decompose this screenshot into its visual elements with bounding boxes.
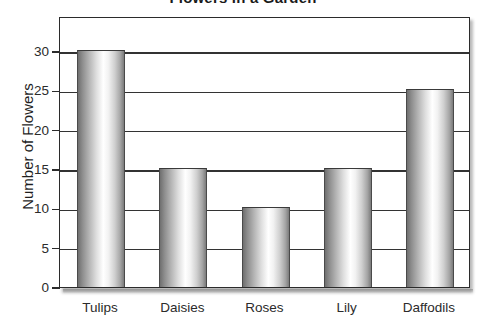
y-tick-mark-0: [52, 287, 60, 288]
y-tick-label-0: 0: [9, 281, 49, 295]
y-tick-label-10: 10: [9, 202, 49, 216]
y-tick-mark-20: [52, 130, 60, 131]
y-tick-mark-10: [52, 209, 60, 210]
y-tick-label-30: 30: [9, 45, 49, 59]
y-tick-mark-30: [52, 51, 60, 52]
bar-tulips: [77, 50, 125, 287]
y-tick-label-20: 20: [9, 124, 49, 138]
y-tick-mark-25: [52, 91, 60, 92]
chart-title: Flowers in a Garden: [0, 0, 486, 6]
plot-area: [59, 17, 470, 288]
bar-daffodils: [406, 89, 454, 287]
y-tick-mark-15: [52, 169, 60, 170]
axis-baseline-shadow: [63, 289, 473, 293]
y-axis-label: Number of Flowers: [19, 37, 36, 257]
bar-chart-figure: Flowers in a Garden Number of Flowers 05…: [0, 0, 486, 329]
y-tick-mark-5: [52, 248, 60, 249]
y-tick-label-25: 25: [9, 84, 49, 98]
bar-lily: [324, 168, 372, 287]
y-tick-label-5: 5: [9, 242, 49, 256]
bar-daisies: [159, 168, 207, 287]
y-tick-label-15: 15: [9, 163, 49, 177]
x-tick-label-daffodils: Daffodils: [369, 300, 486, 315]
bar-roses: [242, 207, 290, 287]
